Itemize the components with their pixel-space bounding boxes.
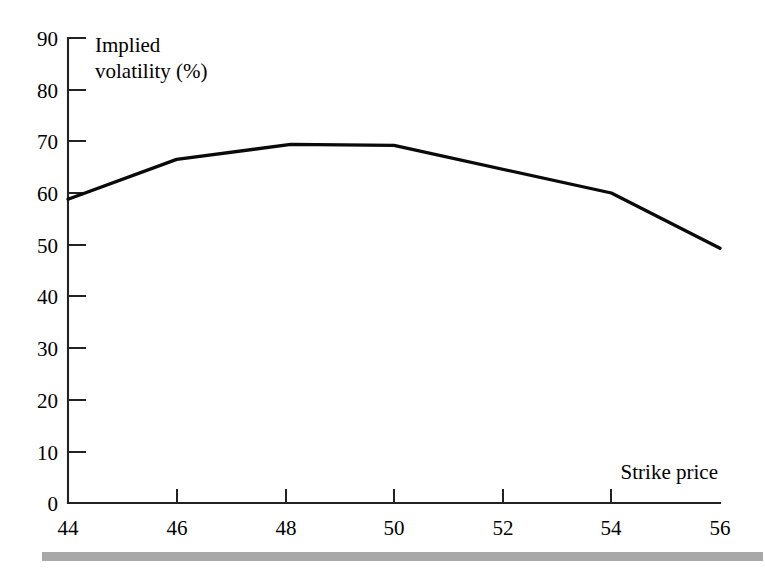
implied-volatility-line-chart: 90 80 70 60 50 40 30 20 10 0 44 46 48 50…	[0, 0, 765, 571]
y-tick-label: 30	[37, 337, 58, 361]
y-tick-label: 20	[37, 389, 58, 413]
y-tick-label: 80	[37, 79, 58, 103]
x-tick-label: 50	[384, 516, 405, 540]
y-tick-label: 0	[48, 492, 59, 516]
x-tick-label: 44	[58, 516, 80, 540]
y-tick-label: 10	[37, 441, 58, 465]
y-tick-label: 40	[37, 285, 58, 309]
y-tick-label: 60	[37, 182, 58, 206]
y-tick-label: 50	[37, 234, 58, 258]
x-tick-label: 54	[601, 516, 623, 540]
chart-figure: 90 80 70 60 50 40 30 20 10 0 44 46 48 50…	[0, 0, 765, 571]
y-axis-title-line-2: volatility (%)	[95, 59, 208, 83]
x-tick-label: 56	[710, 516, 731, 540]
x-axis-title: Strike price	[621, 460, 718, 484]
x-tick-label: 46	[167, 516, 188, 540]
footer-divider-rule	[42, 552, 763, 561]
chart-background	[0, 0, 765, 571]
x-tick-label: 48	[276, 516, 297, 540]
y-tick-label: 90	[37, 27, 58, 51]
y-tick-label: 70	[37, 130, 58, 154]
x-tick-label: 52	[493, 516, 514, 540]
y-axis-title-line-1: Implied	[95, 33, 161, 57]
